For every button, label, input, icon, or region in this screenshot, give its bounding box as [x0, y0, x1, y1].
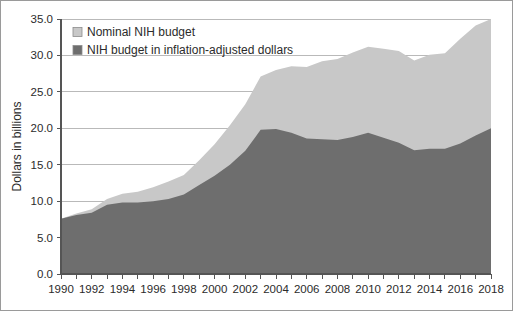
y-tick-label-20: 20.0: [31, 122, 53, 134]
legend-swatch-1: [73, 28, 82, 37]
x-tick-label-2000: 2000: [202, 283, 228, 295]
y-tick-label-30: 30.0: [31, 49, 53, 61]
legend-swatch-2: [73, 46, 82, 55]
y-tick-label-15: 15.0: [31, 159, 53, 171]
x-tick-label-2008: 2008: [325, 283, 351, 295]
y-axis-title: Dollars in billions: [10, 101, 24, 191]
x-tick-label-2002: 2002: [232, 283, 258, 295]
y-axis-title-text: Dollars in billions: [10, 101, 24, 191]
x-tick-label-2006: 2006: [294, 283, 320, 295]
x-tick-label-2018: 2018: [478, 283, 504, 295]
x-tick-label-2012: 2012: [386, 283, 412, 295]
x-tick-label-2016: 2016: [447, 283, 473, 295]
x-tick-label-2010: 2010: [355, 283, 381, 295]
y-tick-label-5: 5.0: [37, 232, 53, 244]
y-tick-label-25: 25.0: [31, 86, 53, 98]
chart-legend: Nominal NIH budgetNIH budget in inflatio…: [73, 25, 293, 57]
chart-container: 0.05.010.015.020.025.030.035.0 199019921…: [0, 0, 513, 311]
y-tick-label-35: 35.0: [31, 13, 53, 25]
legend-label-2: NIH budget in inflation-adjusted dollars: [87, 43, 293, 57]
x-axis-tick-labels: 1990199219941996199820002002200420062008…: [48, 283, 504, 295]
x-tick-label-1998: 1998: [171, 283, 197, 295]
x-tick-label-2014: 2014: [417, 283, 443, 295]
x-tick-label-1990: 1990: [48, 283, 74, 295]
y-tick-label-10: 10.0: [31, 195, 53, 207]
x-tick-label-2004: 2004: [263, 283, 289, 295]
y-axis-tick-labels: 0.05.010.015.020.025.030.035.0: [31, 13, 53, 280]
x-tick-label-1996: 1996: [140, 283, 166, 295]
y-tick-label-0: 0.0: [37, 268, 53, 280]
area-series-group: [61, 19, 491, 274]
x-tick-label-1994: 1994: [110, 283, 136, 295]
legend-label-1: Nominal NIH budget: [87, 25, 196, 39]
x-tick-label-1992: 1992: [79, 283, 105, 295]
area-chart: 0.05.010.015.020.025.030.035.0 199019921…: [1, 1, 513, 311]
